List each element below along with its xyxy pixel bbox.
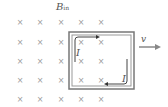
loop-diagram — [0, 0, 168, 107]
velocity-label: v — [141, 34, 146, 44]
current-label-left: I — [76, 47, 80, 58]
current-label-right: I — [122, 73, 126, 84]
arrowhead-bottom — [104, 82, 108, 86]
arrowhead-top — [96, 35, 100, 39]
velocity-arrowhead — [155, 44, 161, 50]
